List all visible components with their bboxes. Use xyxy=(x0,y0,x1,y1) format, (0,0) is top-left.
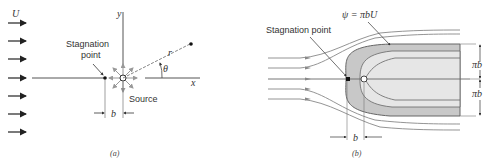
caption-b: (b) xyxy=(352,149,362,158)
streamline-arrows xyxy=(305,57,311,101)
source-label: Source xyxy=(129,94,158,104)
stagnation-label-line2: point xyxy=(81,50,101,60)
stagnation-leader-b xyxy=(310,37,346,76)
freestream-velocity-label: U xyxy=(12,8,20,19)
half-width-lower-label: πb xyxy=(472,88,482,99)
angle-label: θ xyxy=(163,63,168,74)
stagnation-point-b xyxy=(346,77,350,81)
dim-b-label-a: b xyxy=(111,108,116,119)
radius-label: r xyxy=(168,47,172,58)
figure-b: Stagnation point ψ = πbU πb πb b (b) xyxy=(266,9,482,158)
rankine-half-body-figure: U y x Stagnation xyxy=(0,0,488,160)
dim-b-label-b: b xyxy=(353,132,358,143)
field-point xyxy=(189,42,193,46)
stagnation-point-a xyxy=(103,76,107,80)
figure-a: U y x Stagnation xyxy=(8,8,200,158)
x-axis-label: x xyxy=(190,77,196,88)
caption-a: (a) xyxy=(110,149,120,158)
stagnation-label-line1: Stagnation xyxy=(66,39,109,49)
equation-leader xyxy=(368,22,390,45)
half-width-upper-label: πb xyxy=(472,59,482,70)
freestream-arrows xyxy=(8,23,26,132)
source-point-b xyxy=(361,76,367,82)
stagnation-leader xyxy=(93,64,103,75)
radius-line xyxy=(123,44,190,78)
stagnation-label-b: Stagnation point xyxy=(266,25,332,35)
streamline-equation-label: ψ = πbU xyxy=(342,9,378,20)
angle-arc xyxy=(160,63,162,78)
y-axis-label: y xyxy=(116,8,122,19)
